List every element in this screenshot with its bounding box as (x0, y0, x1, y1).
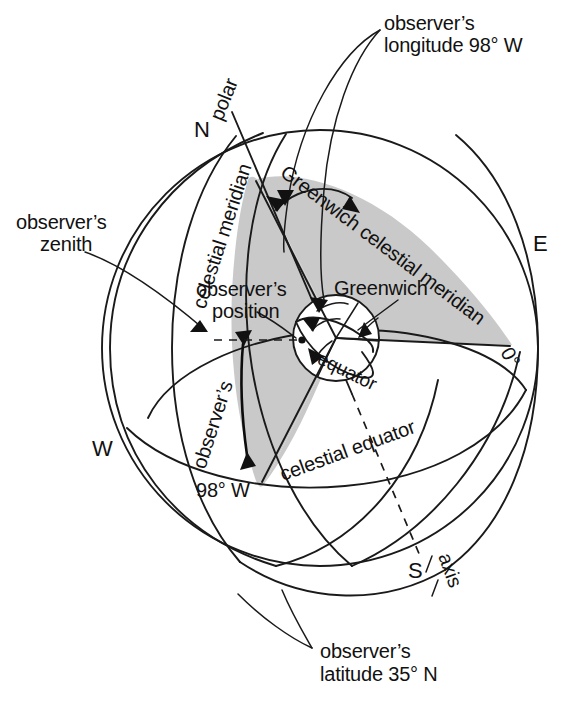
celestial-sphere-diagram: observer’s longitude 98° W observer’s ze… (0, 0, 566, 702)
label-observers-position-line2: position (212, 300, 279, 322)
label-observers-celestial-meridian-part1: observer’s (188, 378, 237, 471)
label-observers-longitude-line2: longitude 98° W (384, 34, 523, 56)
label-prime-meridian-zero: 0° (496, 344, 524, 371)
label-cardinal-n: N (194, 117, 210, 142)
observers-position-dot (298, 336, 305, 343)
label-observers-zenith-line2: zenith (40, 233, 92, 255)
leader-observers-latitude (238, 590, 312, 648)
label-observers-latitude-line1: observer’s (320, 640, 411, 662)
label-polar: polar (205, 74, 242, 123)
label-cardinal-w: W (92, 436, 113, 461)
figure-canvas: observer’s longitude 98° W observer’s ze… (0, 0, 566, 702)
label-observers-zenith-line1: observer’s (16, 211, 107, 233)
label-cardinal-e: E (533, 231, 547, 256)
label-observers-longitude-line1: observer’s (384, 12, 475, 34)
label-longitude-98-w: 98° W (196, 479, 250, 501)
label-cardinal-s: S (408, 558, 422, 583)
label-observers-latitude-line2: latitude 35° N (320, 663, 438, 685)
